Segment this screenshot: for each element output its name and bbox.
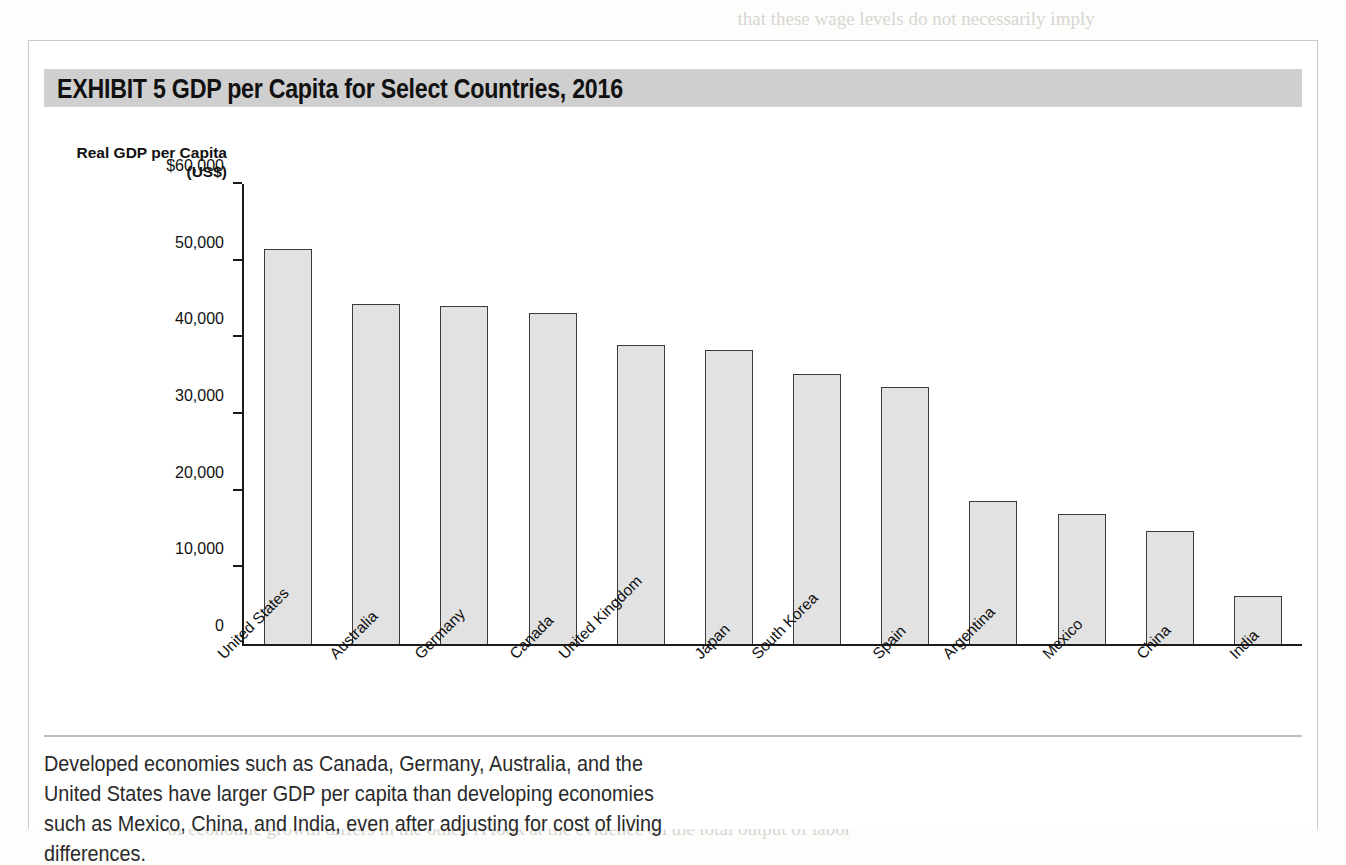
bar-chart: Real GDP per Capita (US$) $60,00050,0004…	[29, 121, 1319, 741]
y-axis-tick	[233, 565, 242, 567]
y-axis-tick-label: 20,000	[94, 464, 224, 482]
bar-slot	[244, 184, 332, 644]
exhibit-card: EXHIBIT 5 GDP per Capita for Select Coun…	[28, 40, 1318, 829]
y-axis-tick-label: $60,000	[94, 157, 224, 175]
y-axis-tick	[233, 489, 242, 491]
bar[interactable]	[705, 350, 753, 644]
bar-slot	[685, 184, 773, 644]
bar[interactable]	[352, 304, 400, 644]
y-axis-tick	[233, 335, 242, 337]
bar-slot	[332, 184, 420, 644]
bar[interactable]	[1146, 531, 1194, 644]
plot-area: $60,00050,00040,00030,00020,00010,0000 U…	[242, 184, 1302, 646]
bar-slot	[1126, 184, 1214, 644]
bar-slot	[1038, 184, 1126, 644]
bar[interactable]	[881, 387, 929, 644]
bar-slot	[949, 184, 1037, 644]
exhibit-caption: Developed economies such as Canada, Germ…	[44, 749, 688, 865]
bar-slot	[420, 184, 508, 644]
y-axis-tick-label: 40,000	[94, 310, 224, 328]
y-axis-tick-label: 10,000	[94, 540, 224, 558]
caption-divider	[44, 735, 1302, 737]
bar-slot	[773, 184, 861, 644]
exhibit-header-bar: EXHIBIT 5 GDP per Capita for Select Coun…	[44, 69, 1302, 107]
bar-slot	[509, 184, 597, 644]
y-axis-tick	[233, 182, 242, 184]
y-axis-tick-label: 0	[94, 617, 224, 635]
bar[interactable]	[440, 306, 488, 644]
y-axis-tick-label: 30,000	[94, 387, 224, 405]
exhibit-title: EXHIBIT 5 GDP per Capita for Select Coun…	[57, 74, 623, 105]
bar[interactable]	[264, 249, 312, 644]
y-axis-tick	[233, 412, 242, 414]
bar-slot	[861, 184, 949, 644]
bar-slot	[1214, 184, 1302, 644]
bar-series	[244, 184, 1302, 644]
y-axis-tick	[233, 259, 242, 261]
bar-slot	[597, 184, 685, 644]
bar[interactable]	[529, 313, 577, 644]
y-axis-tick-label: 50,000	[94, 234, 224, 252]
